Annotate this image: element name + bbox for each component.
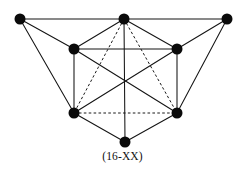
- graph-vertex-middle-right: [172, 44, 183, 55]
- graph-edge-tl-bl: [20, 19, 74, 113]
- graph-vertex-bottom-center: [120, 137, 131, 148]
- graph-vertex-top-left: [15, 14, 26, 25]
- graph-edge-tr-br: [177, 19, 227, 113]
- figure-container: (16-XX): [0, 0, 245, 175]
- graph-edge-tc-br: [124, 19, 177, 113]
- graph-vertex-lower-right: [172, 108, 183, 119]
- graph-vertex-lower-left: [69, 108, 80, 119]
- graph-edge-bl-bc: [74, 113, 125, 142]
- graph-edge-br-bc: [125, 113, 177, 142]
- dashed-edge-layer: [74, 19, 177, 113]
- graph-vertex-middle-left: [69, 44, 80, 55]
- graph-edge-tc-bl: [74, 19, 124, 113]
- solid-edge-layer: [20, 19, 227, 142]
- graph-vertex-top-right: [222, 14, 233, 25]
- figure-caption: (16-XX): [0, 149, 245, 163]
- graph-edge-tc-bc: [124, 19, 125, 142]
- graph-vertex-top-center: [119, 14, 130, 25]
